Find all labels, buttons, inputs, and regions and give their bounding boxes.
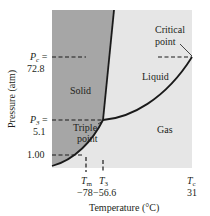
solid-label: Solid [70,85,91,96]
p1-value: 1.00 [27,149,45,160]
x-axis-title: Temperature (°C) [89,202,159,214]
liquid-label: Liquid [142,71,169,82]
tm-value: −78 [77,187,93,198]
triple-point-label-2: point [77,133,98,144]
critical-point-label-1: Critical [155,24,185,35]
pc-value: 72.8 [27,63,45,74]
phase-diagram: Solid Liquid Gas Triple point Critical p… [0,0,210,216]
triple-point-label-1: Triple [73,122,98,133]
tc-value: 31 [187,187,197,198]
p3-value: 5.1 [33,126,46,137]
gas-label: Gas [157,124,173,135]
critical-point-label-2: point [155,36,176,47]
y-axis-title: Pressure (atm) [6,70,18,128]
t3-value: −56.6 [93,187,116,198]
